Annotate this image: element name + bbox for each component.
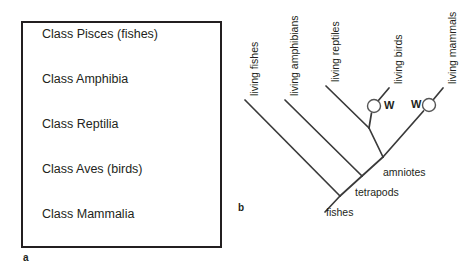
branch-to-mammal-marker	[383, 111, 424, 157]
list-item: Class Mammalia	[42, 192, 202, 237]
branch-to-bird-marker	[369, 113, 372, 128]
panel-b-caption: b	[238, 202, 244, 213]
branch-living-fishes	[245, 100, 340, 196]
tip-label-living-fishes: living fishes	[248, 42, 260, 96]
branch-living-amphibians	[285, 100, 362, 176]
node-label-amniotes: amniotes	[383, 166, 426, 178]
marker-label-w-mammals: W	[411, 98, 421, 110]
panel-b-cladogram: living fishes living amphibians living r…	[228, 0, 468, 275]
panel-a-caption: a	[23, 252, 29, 263]
list-item: Class Amphibia	[42, 57, 202, 102]
marker-circle-mammals	[423, 99, 436, 112]
branch-tetrapods-to-amniotes	[362, 157, 383, 176]
tip-label-living-mammals: living mammals	[446, 12, 458, 84]
classification-list: Class Pisces (fishes) Class Amphibia Cla…	[42, 12, 202, 237]
list-item: Class Pisces (fishes)	[42, 12, 202, 57]
marker-label-w-birds: W	[384, 99, 394, 111]
list-item: Class Aves (birds)	[42, 147, 202, 192]
tip-label-living-birds: living birds	[392, 34, 404, 84]
branch-living-mammals	[433, 88, 443, 100]
panel-a-classification: Class Pisces (fishes) Class Amphibia Cla…	[0, 0, 235, 275]
tip-label-living-amphibians: living amphibians	[288, 15, 300, 96]
branch-living-reptiles	[326, 86, 369, 128]
list-item: Class Reptilia	[42, 102, 202, 147]
marker-circle-birds	[368, 100, 381, 113]
cladogram-svg	[228, 0, 468, 275]
node-label-tetrapods: tetrapods	[355, 186, 399, 198]
branch-amniotes-to-archosaurs	[369, 128, 383, 157]
figure-root: Class Pisces (fishes) Class Amphibia Cla…	[0, 0, 468, 275]
node-label-fishes: fishes	[326, 206, 353, 218]
tip-label-living-reptiles: living reptiles	[329, 21, 341, 82]
